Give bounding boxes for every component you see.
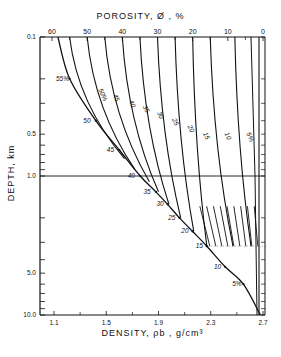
fan-line bbox=[227, 206, 234, 246]
fan-line bbox=[241, 206, 246, 246]
top-axis-title: POROSITY, Ø , % bbox=[0, 11, 281, 21]
porosity-curve-label: 20 bbox=[186, 123, 196, 134]
y-axis-title: DEPTH, km bbox=[6, 138, 16, 208]
porosity-tick-label: 20 bbox=[189, 28, 197, 35]
porosity-curve-25 bbox=[158, 37, 181, 218]
compaction-curve-label: 40 bbox=[128, 172, 136, 179]
compaction-curve-label: 45 bbox=[107, 146, 115, 153]
porosity-curve-label: 10 bbox=[224, 131, 234, 141]
compaction-curve-label: 10 bbox=[214, 263, 222, 270]
porosity-curve-label: 30 bbox=[156, 110, 166, 120]
depth-tick-label: 5.0 bbox=[27, 269, 36, 276]
porosity-tick-label: 40 bbox=[118, 28, 126, 35]
curve-marker bbox=[224, 266, 226, 268]
porosity-curve-20 bbox=[175, 37, 194, 231]
porosity-curve-label: 45 bbox=[112, 93, 122, 103]
porosity-density-depth-chart: 60504030201001.11.51.92.32.70.10.51.05.0… bbox=[0, 0, 281, 357]
fan-line bbox=[234, 206, 240, 246]
porosity-curve-35 bbox=[122, 37, 158, 192]
density-tick-label: 2.7 bbox=[258, 319, 267, 326]
porosity-curve-15 bbox=[193, 37, 207, 246]
compaction-curve-label: 25 bbox=[167, 214, 176, 221]
porosity-tick-label: 60 bbox=[48, 28, 56, 35]
density-tick-label: 1.9 bbox=[154, 319, 163, 326]
porosity-tick-label: 50 bbox=[83, 28, 91, 35]
depth-tick-label: 0.5 bbox=[27, 130, 36, 137]
compaction-curve-label: 50 bbox=[83, 117, 91, 124]
depth-tick-label: 1.0 bbox=[27, 172, 36, 179]
compaction-curve-label: 15 bbox=[196, 242, 204, 249]
depth-tick-label: 0.1 bbox=[27, 33, 36, 40]
porosity-curve-30 bbox=[140, 37, 169, 204]
porosity-curve-label: 40 bbox=[128, 99, 138, 109]
density-tick-label: 2.3 bbox=[206, 319, 215, 326]
compaction-curve-label: 5% bbox=[232, 280, 242, 287]
x-axis-title: DENSITY, ρb , g/cm³ bbox=[40, 328, 265, 338]
density-tick-label: 1.1 bbox=[49, 319, 58, 326]
compaction-curve-label: 20 bbox=[180, 227, 189, 234]
compaction-curve-label: 55% bbox=[56, 75, 69, 82]
porosity-tick-label: 10 bbox=[224, 28, 232, 35]
compaction-curve-label: 35 bbox=[143, 188, 151, 195]
curve-marker bbox=[155, 191, 157, 193]
density-tick-label: 1.5 bbox=[102, 319, 111, 326]
porosity-tick-label: 0 bbox=[261, 28, 265, 35]
curve-marker bbox=[69, 78, 71, 80]
compaction-curve-label: 30 bbox=[157, 200, 165, 207]
depth-tick-label: 10.0 bbox=[23, 311, 36, 318]
curve-marker bbox=[242, 283, 244, 285]
porosity-curve-label: 15 bbox=[202, 131, 212, 141]
porosity-tick-label: 30 bbox=[154, 28, 162, 35]
curve-marker bbox=[139, 175, 141, 177]
